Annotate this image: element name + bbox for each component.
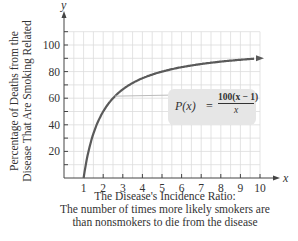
annotation-leader-line (115, 95, 175, 96)
x-axis-caption: The Disease's Incidence Ratio: The numbe… (40, 190, 290, 229)
formula-lhs: P(x) (175, 99, 196, 114)
y-axis-label: Percentage of Deaths from the Disease Th… (8, 16, 34, 186)
formula-fraction: 100(x − 1) x (218, 92, 254, 115)
formula-annotation: P(x) = 100(x − 1) x (168, 89, 256, 125)
svg-text:20: 20 (49, 145, 61, 157)
svg-text:60: 60 (49, 92, 61, 104)
svg-text:100: 100 (43, 39, 61, 51)
x-axis-label: The Disease's Incidence Ratio: (40, 190, 290, 203)
svg-text:40: 40 (49, 119, 61, 131)
formula-denominator: x (218, 104, 254, 115)
formula-numerator: 100(x − 1) (218, 92, 254, 104)
svg-text:80: 80 (49, 66, 61, 78)
y-axis-label-line-2: Disease That Are Smoking Related (21, 16, 34, 186)
x-axis-sublabel-line-1: The number of times more likely smokers … (40, 203, 290, 216)
svg-text:y: y (60, 0, 67, 12)
formula-equals: = (206, 99, 213, 114)
x-axis-sublabel-line-2: than nonsmokers to die from the disease (40, 216, 290, 229)
svg-text:x: x (282, 171, 289, 185)
y-axis-label-line-1: Percentage of Deaths from the (8, 16, 21, 186)
